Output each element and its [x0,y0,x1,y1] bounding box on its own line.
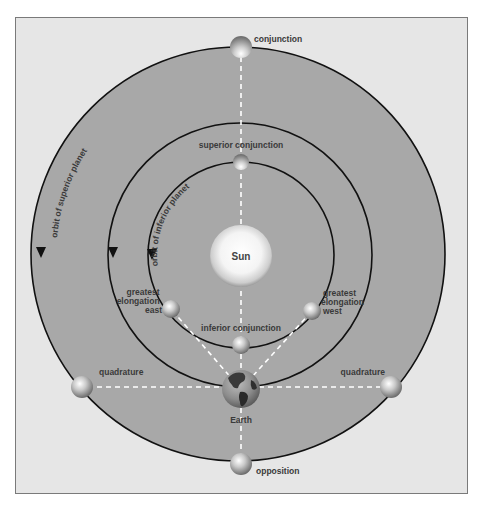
conjunction-label: conjunction [254,34,302,44]
sun-label: Sun [232,251,251,262]
planetary-configurations-diagram: Sun conjunction superior conjunction gre… [0,0,484,507]
planet-conjunction [230,36,252,58]
planet-opposition [230,453,252,475]
planet-inferior-conjunction [232,336,250,354]
planet-superior-conjunction [233,154,249,170]
planet-quadrature-right [380,376,402,398]
earth-label: Earth [230,415,252,425]
planet-greatest-elongation-east [162,300,180,318]
quadrature-right-label: quadrature [341,367,386,377]
elong-west-line-3: west [322,306,342,316]
planet-quadrature-left [71,376,93,398]
planet-greatest-elongation-west [303,302,321,320]
inferior-conjunction-label: inferior conjunction [201,323,281,333]
quadrature-left-label: quadrature [99,367,144,377]
diagram-stage: Sun conjunction superior conjunction gre… [0,0,484,507]
superior-conjunction-label: superior conjunction [199,140,284,150]
opposition-label: opposition [256,466,299,476]
earth [222,370,260,408]
elong-east-line-3: east [145,305,162,315]
